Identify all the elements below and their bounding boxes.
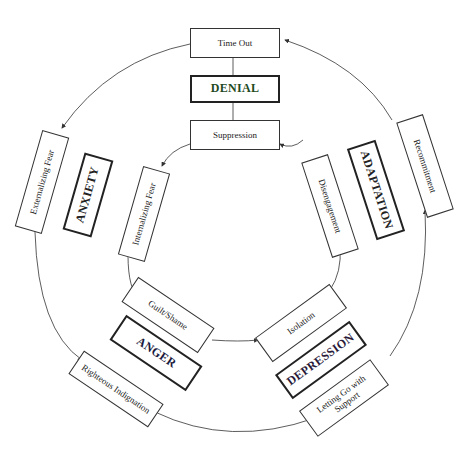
inner-box-suppression: Suppression [190, 120, 280, 150]
outer-box-time-out: Time Out [190, 28, 280, 58]
stage-denial: DENIAL [190, 75, 280, 103]
